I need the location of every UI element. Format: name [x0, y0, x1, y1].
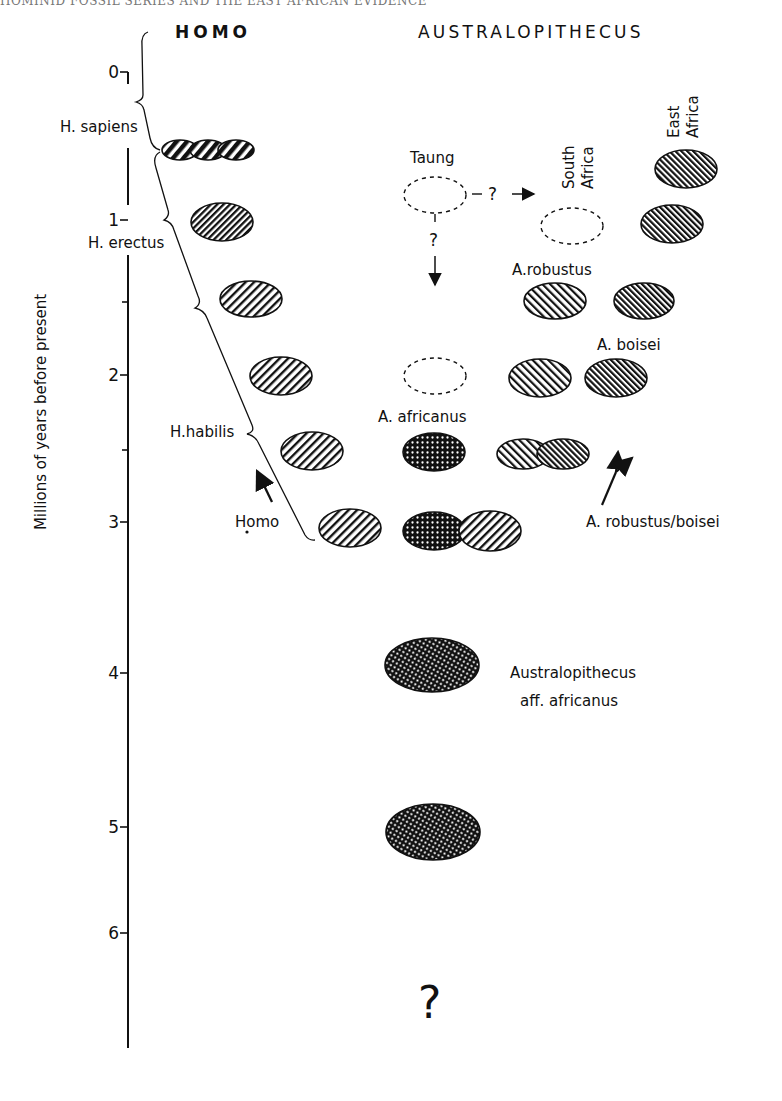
label-taung: Taung: [409, 149, 454, 167]
h-habilis-ellipse-2ma: [250, 357, 312, 395]
taung-question-down: ?: [429, 230, 438, 250]
east-africa-ellipse-1ma: [641, 205, 703, 243]
aff-africanus-ellipse-5ma: [386, 804, 480, 860]
figure: HOMINID FOSSIL SERIES AND THE EAST AFRIC…: [0, 0, 782, 1101]
homo-ellipse-3ma: [319, 509, 381, 547]
aff-africanus-ellipse-4ma: [385, 638, 479, 692]
a-boisei-ellipse-2-5ma: [537, 439, 589, 469]
homo-fossil-ellipses: [162, 140, 381, 547]
label-a-boisei: A. boisei: [597, 336, 661, 354]
label-homo-origin: Homo: [235, 513, 279, 531]
label-east-africa: Africa: [684, 95, 702, 138]
h-sapiens-ellipse-3: [218, 140, 254, 160]
label-a-africanus: A. africanus: [378, 408, 467, 426]
unknown-origin-question: ?: [418, 977, 441, 1028]
label-h-habilis: H.habilis: [170, 423, 235, 441]
tick-4: 4: [108, 663, 119, 683]
a-boisei-ellipse-2ma: [585, 359, 647, 397]
y-axis-label: Millions of years before present: [32, 294, 50, 530]
heading-australopithecus: AUSTRALOPITHECUS: [418, 22, 644, 42]
tick-5: 5: [108, 817, 119, 837]
label-south-africa: Africa: [579, 146, 597, 189]
label-aff-africanus-2: aff. africanus: [520, 692, 618, 710]
tick-3: 3: [108, 512, 119, 532]
east-africa-ellipse-0-6ma: [655, 150, 717, 188]
time-axis: 0 1 2 3 4 5 6 Millions of years before p…: [32, 62, 128, 1048]
label-aff-africanus-1: Australopithecus: [510, 664, 636, 682]
h-habilis-ellipse-2-5ma: [281, 432, 343, 470]
phylogeny-diagram: 0 1 2 3 4 5 6 Millions of years before p…: [0, 0, 782, 1101]
h-erectus-ellipse-1-5ma: [220, 281, 282, 317]
tick-2: 2: [108, 365, 119, 385]
south-africa-dashed-ellipse: [541, 208, 603, 244]
label-h-erectus: H. erectus: [88, 234, 164, 252]
label-east: East: [665, 106, 683, 138]
taung-question-right: ?: [488, 184, 497, 204]
h-erectus-ellipse-1ma: [191, 203, 253, 241]
homo-origin-dot: [245, 530, 248, 533]
a-africanus-ellipse-2-5ma: [403, 433, 465, 471]
running-head: HOMINID FOSSIL SERIES AND THE EAST AFRIC…: [0, 0, 640, 8]
tick-1: 1: [108, 210, 119, 230]
a-boisei-ellipse-1-5ma: [614, 283, 674, 319]
label-south: South: [560, 145, 578, 189]
a-africanus-ellipse-3ma: [403, 512, 465, 550]
a-africanus-overlap-ellipse-3ma: [459, 511, 521, 551]
robustus-boisei-split-arrow: [602, 452, 632, 505]
tick-0: 0: [108, 62, 119, 82]
label-a-robustus-boisei: A. robustus/boisei: [586, 513, 720, 531]
tick-6: 6: [108, 923, 119, 943]
label-h-sapiens: H. sapiens: [60, 118, 138, 136]
homo-origin-arrow: [257, 471, 272, 502]
a-robustus-ellipse-1-5ma: [524, 283, 586, 319]
heading-homo: HOMO: [175, 22, 251, 42]
a-robustus-ellipse-2ma: [509, 359, 571, 397]
label-a-robustus: A.robustus: [512, 261, 592, 279]
a-africanus-dashed-ellipse-2ma: [404, 358, 466, 394]
taung-ellipse: [404, 177, 466, 213]
